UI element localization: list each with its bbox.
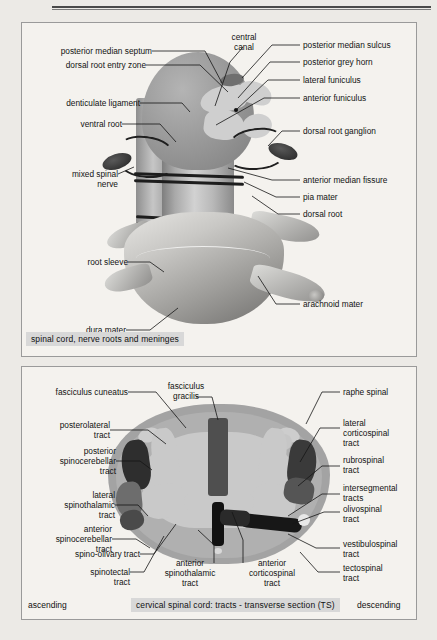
label-ascending: ascending [28, 600, 67, 610]
label-pia-mater: pia mater [303, 192, 421, 202]
label-anterior-median-fissure: anterior median fissure [303, 175, 425, 185]
label-intersegmental-tracts: intersegmental tracts [343, 483, 437, 503]
illustration-spinal-cord-cross-section [108, 398, 330, 578]
label-posterior-grey-horn: posterior grey horn [303, 57, 421, 67]
label-posterior-spinocerebellar-tract: posterior spinocerebellar tract [26, 446, 116, 477]
label-denticulate-ligament: denticulate ligament [32, 98, 140, 108]
label-vestibulospinal-tract: vestibulospinal tract [343, 539, 437, 559]
label-dorsal-root-ganglion: dorsal root ganglion [303, 126, 421, 136]
label-raphe-spinal: raphe spinal [343, 387, 435, 397]
cord-ventral-marker [214, 548, 222, 554]
label-rubrospinal-tract: rubrospinal tract [343, 455, 435, 475]
label-tectospinal-tract: tectospinal tract [343, 563, 435, 583]
label-dorsal-root: dorsal root [303, 209, 421, 219]
label-fasciculus-cuneatus: fasciculus cuneatus [18, 387, 128, 397]
label-spino-olivary-tract: spino-olivary tract [22, 549, 140, 559]
label-anterior-spinothalamic-tract: anterior spinothalamic tract [148, 558, 232, 589]
illustration-spinal-cord-3d [100, 40, 330, 330]
tectospinal-shape [298, 514, 310, 526]
label-root-sleeve: root sleeve [58, 257, 128, 267]
fasciculus-gracilis-shape [208, 418, 228, 496]
anterior-corticospinal-shape [219, 509, 250, 527]
header-rule [52, 6, 431, 8]
caption-spinal-cord-meninges: spinal cord, nerve roots and meninges [26, 332, 184, 346]
header-rule-thin [52, 9, 431, 10]
label-mixed-spinal-nerve: mixed spinal nerve [36, 169, 118, 189]
central-canal-dot [234, 108, 238, 112]
label-olivospinal-tract: olivospinal tract [343, 504, 435, 524]
caption-cord-tracts-ts: cervical spinal cord: tracts - transvers… [131, 598, 340, 612]
label-fasciculus-gracilis: fasciculus gracilis [155, 381, 217, 401]
label-lateral-spinothalamic-tract: lateral spinothalamic tract [26, 490, 115, 521]
label-posterior-median-sulcus: posterior median sulcus [303, 40, 421, 50]
dura-seam [136, 246, 270, 271]
label-descending: descending [357, 600, 400, 610]
label-ventral-root: ventral root [52, 119, 122, 129]
label-anterior-funiculus: anterior funiculus [303, 93, 421, 103]
label-central-canal: central canal [220, 32, 268, 52]
label-anterior-corticospinal-tract: anterior corticospinal tract [230, 558, 314, 589]
label-arachnoid-mater: arachnoid mater [303, 299, 421, 309]
figure-page: posterior median septum dorsal root entr… [0, 0, 437, 640]
label-lateral-funiculus: lateral funiculus [303, 75, 421, 85]
label-posterolateral-tract: posterolateral tract [28, 420, 110, 440]
label-posterior-median-septum: posterior median septum [32, 46, 152, 56]
label-lateral-corticospinal-tract: lateral corticospinal tract [343, 418, 435, 449]
label-dorsal-root-entry-zone: dorsal root entry zone [32, 60, 146, 70]
label-spinotectal-tract: spinotectal tract [48, 567, 130, 587]
